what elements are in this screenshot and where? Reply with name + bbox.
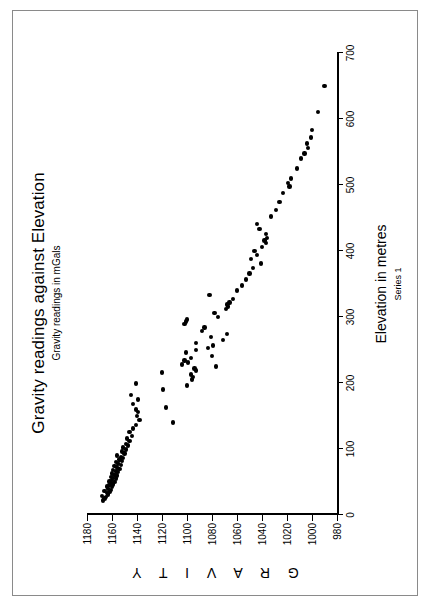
scatter-point [295, 166, 299, 170]
scatter-point [134, 407, 138, 411]
scatter-point [277, 200, 281, 204]
elevation-tick [337, 448, 343, 449]
elevation-tick [337, 118, 343, 119]
scatter-point [322, 84, 326, 88]
elevation-tick [337, 52, 343, 53]
scatter-point [136, 397, 140, 401]
gravity-tick [87, 515, 88, 521]
gravity-tick [237, 515, 238, 521]
scatter-point [211, 343, 215, 347]
gravity-tick [312, 515, 313, 521]
gravity-tick [262, 515, 263, 521]
gravity-tick [287, 515, 288, 521]
scatter-point [185, 317, 189, 321]
gravity-tick-label: 1040 [257, 523, 268, 545]
scatter-point [299, 156, 303, 160]
scatter-point [130, 434, 134, 438]
scatter-point [216, 315, 220, 319]
scatter-point [189, 356, 193, 360]
scatter-point [227, 300, 231, 304]
scatter-point [182, 358, 186, 362]
scatter-point [115, 453, 119, 457]
scatter-point [171, 420, 175, 424]
scatter-point [281, 191, 285, 195]
scatter-point [259, 261, 263, 265]
gravity-tick-label: 1000 [307, 523, 318, 545]
elevation-tick [337, 316, 343, 317]
elevation-tick-label: 300 [345, 309, 356, 326]
scatter-point [257, 227, 261, 231]
legend-label: Series 1 [393, 53, 403, 515]
scatter-point [202, 325, 206, 329]
scatter-point [225, 332, 229, 336]
scatter-point [221, 338, 225, 342]
chart-canvas: Gravity readings against Elevation Gravi… [15, 13, 415, 593]
chart-subtitle: Gravity readings in mGals [51, 13, 62, 593]
scatter-point [269, 214, 273, 218]
scatter-point [131, 402, 135, 406]
gravity-tick [212, 515, 213, 521]
gravity-tick [162, 515, 163, 521]
gravity-tick-label: 1020 [282, 523, 293, 545]
gravity-tick-label: 1160 [107, 523, 118, 545]
scatter-point [134, 381, 138, 385]
elevation-tick-label: 400 [345, 243, 356, 260]
scatter-point [137, 418, 141, 422]
scatter-point [235, 288, 239, 292]
scatter-point [251, 266, 255, 270]
gravity-tick-label: 1180 [82, 523, 93, 545]
scatter-point [186, 360, 190, 364]
scatter-point [194, 348, 198, 352]
chart-title: Gravity readings against Elevation [29, 13, 49, 593]
gravity-tick-label: 1100 [182, 523, 193, 545]
scatter-point [185, 383, 189, 387]
scatter-point [214, 364, 218, 368]
elevation-tick [337, 250, 343, 251]
gravity-tick [137, 515, 138, 521]
rotated-chart-container: Gravity readings against Elevation Gravi… [15, 13, 415, 593]
elevation-tick-label: 100 [345, 441, 356, 458]
elevation-tick-label: 0 [345, 512, 356, 518]
scatter-point [309, 135, 313, 139]
scatter-point [252, 249, 256, 253]
gravity-tick-label: 1140 [132, 523, 143, 545]
scatter-point [160, 370, 164, 374]
scatter-point [240, 283, 244, 287]
elevation-tick-label: 700 [345, 45, 356, 62]
elevation-tick [337, 514, 343, 515]
scatter-point [305, 141, 309, 145]
elevation-tick [337, 184, 343, 185]
scatter-point [231, 297, 235, 301]
gravity-tick [187, 515, 188, 521]
scatter-point [302, 151, 306, 155]
scatter-point [249, 257, 253, 261]
scatter-point [180, 362, 184, 366]
elevation-tick-label: 500 [345, 177, 356, 194]
gravity-tick-label: 980 [332, 523, 343, 540]
scatter-point [164, 405, 168, 409]
elevation-axis-line [337, 53, 339, 515]
scatter-point [192, 366, 196, 370]
plot-area: 9801000102010401060108011001120114011601… [87, 53, 337, 515]
scatter-point [207, 293, 211, 297]
scatter-point [244, 277, 248, 281]
scatter-point [316, 110, 320, 114]
x-axis-title: Elevation in metres [373, 53, 389, 515]
elevation-tick [337, 382, 343, 383]
scatter-point [129, 393, 133, 397]
scatter-point [260, 245, 264, 249]
scatter-point [134, 423, 138, 427]
elevation-tick-label: 200 [345, 375, 356, 392]
scatter-point [255, 222, 259, 226]
scatter-point [247, 271, 251, 275]
scatter-point [210, 354, 214, 358]
scatter-point [212, 311, 216, 315]
scatter-point [189, 372, 193, 376]
scatter-point [306, 146, 310, 150]
page-border: Gravity readings against Elevation Gravi… [12, 10, 418, 596]
scatter-point [289, 176, 293, 180]
scatter-point [125, 436, 129, 440]
gravity-tick [112, 515, 113, 521]
chart-page: Gravity readings against Elevation Gravi… [0, 0, 430, 607]
elevation-tick-label: 600 [345, 111, 356, 128]
